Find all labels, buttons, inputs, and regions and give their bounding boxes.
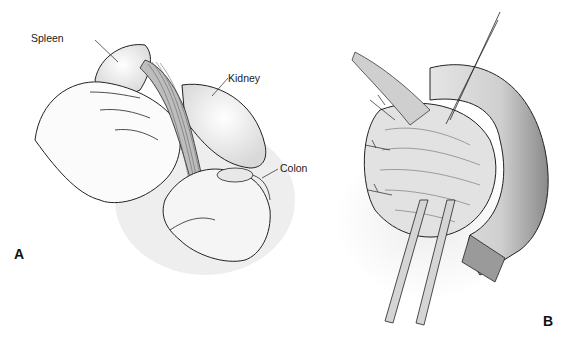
label-kidney: Kidney [228,72,260,84]
panel-b-drawing [335,12,548,325]
label-colon: Colon [280,162,307,174]
panel-letter-a: A [14,246,24,262]
panel-letter-b: B [543,313,553,329]
label-spleen: Spleen [31,32,64,44]
